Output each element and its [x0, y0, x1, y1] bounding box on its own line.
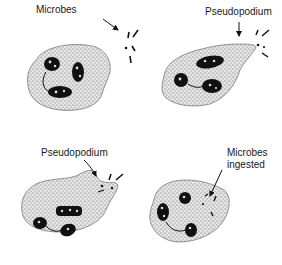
cell-stage-1 [27, 45, 110, 111]
phagocytosis-diagram: Microbes Pseudopodium Pseudopodium Micro… [0, 0, 282, 265]
label-microbes-ingested-line2: ingested [227, 159, 265, 170]
label-microbes: Microbes [36, 4, 77, 15]
cell-stage-3 [22, 170, 118, 238]
diagram-artwork [0, 0, 282, 265]
label-microbes-ingested-line1: Microbes [227, 147, 268, 158]
microbes-stage-1 [103, 19, 138, 63]
cell-stage-2 [162, 44, 256, 106]
cell-stage-4 [150, 180, 229, 242]
label-pseudopodium-stage-3: Pseudopodium [41, 147, 108, 158]
label-pseudopodium-stage-2: Pseudopodium [205, 6, 272, 17]
